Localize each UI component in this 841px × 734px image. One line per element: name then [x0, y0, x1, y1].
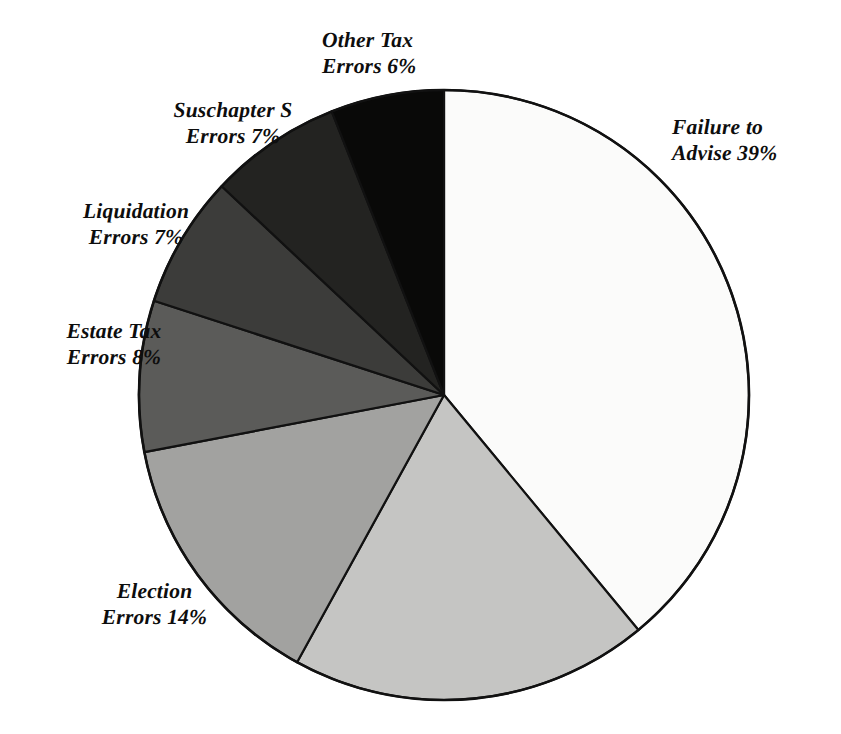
slice-label-other-tax-errors: Other Tax Errors 6%: [322, 27, 502, 79]
pie-chart-figure: Failure to Advise 39% Other Tax Errors 6…: [0, 0, 841, 734]
slice-label-subchapter-s-errors: Suschapter S Errors 7%: [133, 97, 333, 149]
slice-label-failure-to-advise: Failure to Advise 39%: [672, 114, 837, 166]
slice-label-election-errors: Election Errors 14%: [62, 578, 247, 630]
slice-label-liquidation-errors: Liquidation Errors 7%: [36, 198, 236, 250]
slice-label-estate-tax-errors: Estate Tax Errors 8%: [19, 318, 209, 370]
